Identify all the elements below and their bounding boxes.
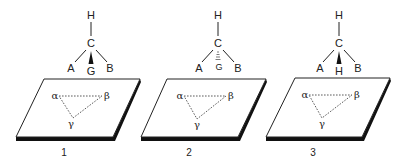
- bond-right: [223, 50, 234, 62]
- bond-right: [344, 50, 355, 62]
- bond-left: [323, 50, 334, 62]
- panel-label: 1: [61, 147, 67, 158]
- atom-top: H: [87, 9, 95, 21]
- molecule-1: H C A G B: [67, 9, 113, 77]
- panel-2: H C A G B α β γ 2: [141, 9, 267, 158]
- site-alpha: α: [302, 89, 309, 100]
- atom-center: C: [87, 37, 95, 49]
- hashed-bond-icon: [216, 52, 221, 60]
- site-beta: β: [354, 89, 360, 100]
- atom-center: C: [335, 37, 343, 49]
- surface-plane: [16, 79, 140, 137]
- surface-3: α β γ: [266, 78, 391, 141]
- atom-front: G: [87, 65, 96, 77]
- atom-right: B: [106, 62, 113, 74]
- atom-top: H: [335, 9, 343, 21]
- atom-right: B: [354, 62, 361, 74]
- site-alpha: α: [52, 90, 59, 101]
- bond-right: [96, 50, 107, 62]
- site-gamma: γ: [68, 118, 74, 129]
- bond-left: [75, 50, 86, 62]
- atom-center: C: [214, 37, 222, 49]
- atom-left: A: [67, 62, 75, 74]
- wedge-bond-icon: [89, 51, 94, 64]
- surface-plane: [141, 79, 266, 137]
- site-beta: β: [104, 90, 110, 101]
- surface-2: α β γ: [141, 79, 267, 141]
- panel-label: 2: [186, 147, 192, 158]
- molecule-2: H C A G B: [195, 9, 241, 74]
- three-point-attachment-figure: H C A G B α β γ 1 H C: [0, 0, 400, 165]
- site-beta: β: [228, 90, 234, 101]
- atom-front: H: [335, 65, 343, 77]
- surface-1: α β γ: [16, 79, 141, 141]
- atom-top: H: [214, 9, 222, 21]
- atom-front: G: [215, 62, 222, 72]
- wedge-bond-icon: [337, 51, 342, 64]
- panel-3: H C A H B α β γ 3: [266, 9, 391, 158]
- panel-1: H C A G B α β γ 1: [16, 9, 141, 158]
- site-gamma: γ: [319, 118, 325, 129]
- atom-right: B: [234, 62, 241, 74]
- bond-left: [202, 50, 213, 62]
- site-alpha: α: [177, 90, 184, 101]
- surface-plane: [266, 78, 390, 137]
- molecule-3: H C A H B: [316, 9, 361, 77]
- atom-left: A: [195, 62, 203, 74]
- site-gamma: γ: [194, 119, 200, 130]
- panel-label: 3: [310, 147, 316, 158]
- atom-left: A: [316, 62, 324, 74]
